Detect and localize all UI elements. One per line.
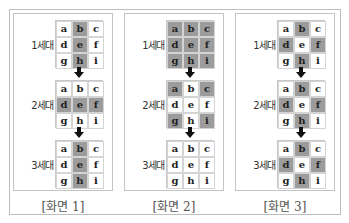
grid-cell-a: a	[278, 81, 294, 97]
generation-1: 1세대abcdefghi	[14, 20, 112, 70]
grid-cell-i: i	[310, 173, 326, 189]
grid-cell-c: c	[199, 81, 215, 97]
grid-cell-b: b	[294, 141, 310, 157]
generation-label: 2세대	[238, 97, 276, 112]
grid-cell-f: f	[88, 97, 104, 113]
grid-cell-d: d	[278, 37, 294, 53]
grid-cell-d: d	[56, 157, 72, 173]
grid-cell-d: d	[167, 157, 183, 173]
grid-cell-c: c	[88, 81, 104, 97]
grid-cell-f: f	[199, 157, 215, 173]
grid-cell-a: a	[56, 21, 72, 37]
down-arrow-icon	[184, 127, 196, 139]
grid-cell-e: e	[72, 37, 88, 53]
grid-cell-a: a	[167, 141, 183, 157]
generation-label: 1세대	[16, 37, 54, 52]
grid-cell-i: i	[88, 173, 104, 189]
grid-cell-b: b	[294, 81, 310, 97]
grid-cell-g: g	[167, 53, 183, 69]
grid-cell-b: b	[294, 21, 310, 37]
down-arrow-icon	[295, 127, 307, 139]
grid-cell-a: a	[278, 21, 294, 37]
generation-label: 3세대	[16, 157, 54, 172]
cell-grid: abcdefghi	[55, 20, 103, 68]
generation-2: 2세대abcdefghi	[14, 80, 112, 130]
grid-cell-i: i	[310, 113, 326, 129]
grid-cell-f: f	[199, 97, 215, 113]
down-arrow-icon	[73, 127, 85, 139]
cell-grid: abcdefghi	[55, 140, 103, 188]
generation-1: 1세대abcdefghi	[125, 20, 223, 70]
grid-cell-i: i	[310, 53, 326, 69]
grid-cell-g: g	[167, 113, 183, 129]
grid-cell-a: a	[278, 141, 294, 157]
cell-grid: abcdefghi	[166, 20, 214, 68]
grid-cell-g: g	[56, 113, 72, 129]
generation-label: 3세대	[127, 157, 165, 172]
grid-cell-b: b	[72, 21, 88, 37]
grid-cell-c: c	[310, 21, 326, 37]
grid-cell-d: d	[167, 97, 183, 113]
grid-cell-c: c	[199, 141, 215, 157]
grid-cell-e: e	[294, 37, 310, 53]
grid-cell-h: h	[294, 173, 310, 189]
grid-cell-c: c	[310, 141, 326, 157]
grid-cell-g: g	[278, 173, 294, 189]
grid-cell-d: d	[278, 157, 294, 173]
generation-label: 1세대	[127, 37, 165, 52]
generation-3: 3세대abcdefghi	[125, 140, 223, 190]
grid-cell-i: i	[199, 173, 215, 189]
grid-cell-f: f	[310, 37, 326, 53]
grid-cell-d: d	[56, 37, 72, 53]
grid-cell-c: c	[310, 81, 326, 97]
generation-3: 3세대abcdefghi	[14, 140, 112, 190]
grid-cell-g: g	[56, 173, 72, 189]
generation-label: 1세대	[238, 37, 276, 52]
cell-grid: abcdefghi	[277, 80, 325, 128]
cell-grid: abcdefghi	[166, 140, 214, 188]
grid-cell-b: b	[183, 21, 199, 37]
grid-cell-b: b	[183, 81, 199, 97]
grid-cell-f: f	[88, 37, 104, 53]
grid-cell-d: d	[278, 97, 294, 113]
down-arrow-icon	[73, 67, 85, 79]
grid-cell-e: e	[294, 97, 310, 113]
grid-cell-g: g	[167, 173, 183, 189]
grid-cell-c: c	[199, 21, 215, 37]
grid-cell-i: i	[199, 113, 215, 129]
grid-cell-i: i	[88, 53, 104, 69]
grid-cell-e: e	[183, 97, 199, 113]
grid-cell-g: g	[278, 53, 294, 69]
grid-cell-e: e	[183, 157, 199, 173]
grid-cell-a: a	[167, 81, 183, 97]
grid-cell-g: g	[278, 113, 294, 129]
cell-grid: abcdefghi	[55, 80, 103, 128]
grid-cell-e: e	[183, 37, 199, 53]
grid-cell-d: d	[56, 97, 72, 113]
screen-panel-2: 1세대abcdefghi2세대abcdefghi3세대abcdefghi	[124, 13, 224, 191]
cell-grid: abcdefghi	[277, 140, 325, 188]
grid-cell-h: h	[183, 173, 199, 189]
grid-cell-f: f	[199, 37, 215, 53]
grid-cell-g: g	[56, 53, 72, 69]
grid-cell-f: f	[310, 157, 326, 173]
cell-grid: abcdefghi	[166, 80, 214, 128]
screen-panel-1: 1세대abcdefghi2세대abcdefghi3세대abcdefghi	[13, 13, 113, 191]
grid-cell-c: c	[88, 21, 104, 37]
generation-label: 3세대	[238, 157, 276, 172]
grid-cell-b: b	[183, 141, 199, 157]
grid-cell-b: b	[72, 141, 88, 157]
screen-caption-1: [화면 1]	[13, 197, 113, 214]
grid-cell-a: a	[167, 21, 183, 37]
grid-cell-i: i	[199, 53, 215, 69]
grid-cell-e: e	[294, 157, 310, 173]
grid-cell-f: f	[88, 157, 104, 173]
generation-3: 3세대abcdefghi	[236, 140, 334, 190]
generation-1: 1세대abcdefghi	[236, 20, 334, 70]
grid-cell-h: h	[72, 173, 88, 189]
generation-label: 2세대	[127, 97, 165, 112]
grid-cell-f: f	[310, 97, 326, 113]
grid-cell-a: a	[56, 81, 72, 97]
screen-caption-2: [화면 2]	[124, 197, 224, 214]
screen-caption-3: [화면 3]	[235, 197, 335, 214]
